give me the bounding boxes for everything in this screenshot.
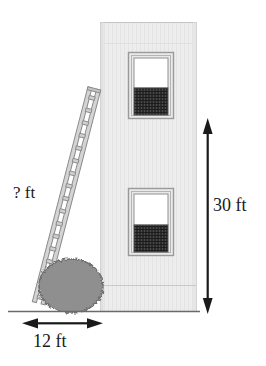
window-icon [129, 189, 174, 256]
window-icon [129, 53, 174, 119]
double-headed-arrow-horizontal-icon [22, 318, 103, 328]
hypotenuse-label: ? ft [13, 184, 35, 201]
base-label: 12 ft [33, 332, 67, 350]
diagram-canvas [0, 0, 266, 366]
ladder-problem-diagram: ? ft 30 ft 12 ft [0, 0, 266, 366]
bush-icon [39, 259, 103, 313]
height-label: 30 ft [213, 196, 247, 214]
double-headed-arrow-vertical-icon [203, 118, 213, 314]
